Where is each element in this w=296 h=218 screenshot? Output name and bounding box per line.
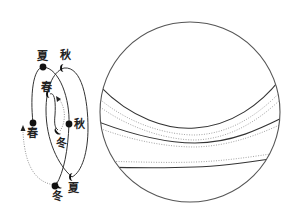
diagram-canvas: 夏 秋 春 春 秋 冬 冬 夏 <box>0 0 296 218</box>
dotted-arrow-mid <box>59 99 64 131</box>
band-upper-solid <box>96 74 284 128</box>
label-spring-left: 春 <box>27 126 39 140</box>
label-autumn-top: 秋 <box>60 48 72 62</box>
band-lower-solid <box>96 157 284 168</box>
label-winter-bottom: 冬 <box>52 189 63 203</box>
winter-mid-halfmoon-icon <box>53 127 61 136</box>
band-upper-dotted-2 <box>96 96 284 140</box>
label-spring-mid: 春 <box>41 80 53 94</box>
band-middle-solid <box>96 117 284 143</box>
label-summer-top: 夏 <box>37 50 49 63</box>
autumn-right-dot-icon <box>66 121 73 128</box>
label-summer-bottom: 夏 <box>68 182 80 195</box>
loop-a-left-arc <box>32 67 43 123</box>
sphere-bands-diagram <box>96 22 284 202</box>
label-winter-mid: 冬 <box>56 136 67 150</box>
spring-left-dot-icon <box>30 120 37 127</box>
seasonal-loops-diagram: 夏 秋 春 春 秋 冬 冬 夏 <box>21 48 89 203</box>
summer-top-dot-icon <box>40 64 47 71</box>
label-autumn-right: 秋 <box>74 117 86 131</box>
sphere-outline <box>100 22 280 202</box>
arrowhead-left-icon <box>21 125 26 131</box>
